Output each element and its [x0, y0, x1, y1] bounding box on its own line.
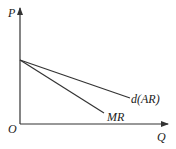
revenue-diagram: P Q O d(AR) MR	[0, 0, 176, 149]
origin-label: O	[8, 122, 17, 136]
demand-ar-label: d(AR)	[131, 92, 160, 106]
mr-line	[20, 60, 104, 113]
mr-label: MR	[106, 110, 125, 124]
demand-ar-line	[20, 60, 130, 98]
y-axis-label: P	[7, 6, 16, 20]
x-axis-label: Q	[157, 130, 166, 144]
